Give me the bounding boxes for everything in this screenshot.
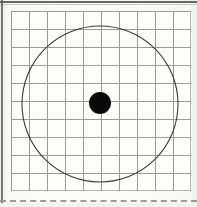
center-dot bbox=[89, 92, 111, 114]
figure-root bbox=[0, 0, 197, 207]
figure-vector-layer bbox=[0, 0, 197, 207]
bottom-margin bbox=[0, 203, 197, 207]
dashed-rule bbox=[0, 200, 197, 202]
